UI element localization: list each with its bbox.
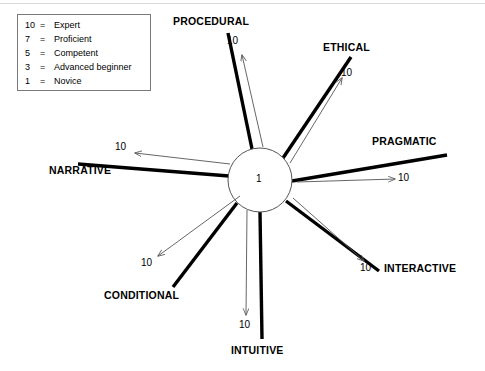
center-value: 1	[256, 173, 262, 184]
arrow-pragmatic	[297, 179, 395, 182]
radial-spoke-graphic	[0, 0, 485, 371]
axis-value-conditional: 10	[141, 257, 152, 268]
arrow-conditional	[158, 196, 240, 256]
arrow-intuitive	[246, 210, 247, 315]
axis-value-interactive: 10	[360, 262, 371, 273]
axis-label-intuitive: INTUITIVE	[231, 344, 284, 356]
arrow-narrative	[135, 153, 230, 164]
axis-value-narrative: 10	[115, 141, 126, 152]
arrow-procedural	[242, 55, 263, 147]
spoke-pragmatic	[292, 155, 447, 181]
axis-value-procedural: 10	[227, 35, 238, 46]
axis-label-pragmatic: PRAGMATIC	[372, 135, 437, 147]
axis-value-pragmatic: 10	[398, 172, 409, 183]
arrow-ethical	[290, 78, 342, 163]
axis-label-narrative: NARRATIVE	[49, 164, 111, 176]
axis-label-interactive: INTERACTIVE	[384, 262, 456, 274]
diagram-canvas: 10 = Expert 7 = Proficient 5 = Competent…	[0, 0, 485, 371]
axis-label-ethical: ETHICAL	[323, 41, 370, 53]
spoke-conditional	[173, 203, 237, 287]
axis-label-procedural: PROCEDURAL	[173, 15, 249, 27]
spoke-procedural	[228, 33, 252, 149]
spoke-interactive	[286, 201, 379, 271]
spoke-intuitive	[260, 212, 262, 339]
arrow-interactive	[293, 198, 364, 261]
axis-value-intuitive: 10	[239, 319, 250, 330]
axis-label-conditional: CONDITIONAL	[104, 289, 179, 301]
axis-value-ethical: 10	[341, 67, 352, 78]
